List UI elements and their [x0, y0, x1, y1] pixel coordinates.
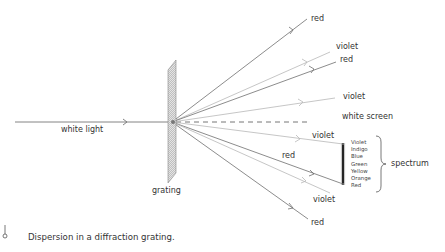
- label-upper-red: red: [340, 56, 353, 64]
- label-lower-red: red: [282, 152, 295, 160]
- label-grating: grating: [152, 187, 181, 195]
- label-white-light: white light: [61, 126, 103, 134]
- spectrum-color: Blue: [351, 153, 371, 160]
- label-upper-violet: violet: [336, 43, 358, 51]
- spectrum-color: Yellow: [351, 168, 371, 175]
- spectrum-color: Green: [351, 161, 371, 168]
- label-white-screen: white screen: [342, 113, 393, 121]
- label-bottom-red: red: [311, 219, 324, 227]
- label-spectrum: spectrum: [391, 160, 429, 168]
- label-bottom-violet: violet: [313, 196, 335, 204]
- spectrum-color-list: Violet Indigo Blue Green Yellow Orange R…: [351, 139, 371, 189]
- label-lower-violet: violet: [312, 132, 334, 140]
- spectrum-color: Indigo: [351, 146, 371, 153]
- caption-bullet-icon: [3, 225, 7, 238]
- spectrum-brace: [376, 136, 386, 192]
- grating-center-point: [171, 120, 175, 124]
- spectrum-color: Red: [351, 182, 371, 189]
- figure-caption: Dispersion in a diffraction grating.: [28, 232, 175, 242]
- spectrum-color: Violet: [351, 139, 371, 146]
- label-mid-violet: violet: [343, 93, 365, 101]
- spectrum-color: Orange: [351, 175, 371, 182]
- diffracted-rays: [172, 19, 343, 219]
- label-top-red: red: [311, 15, 324, 23]
